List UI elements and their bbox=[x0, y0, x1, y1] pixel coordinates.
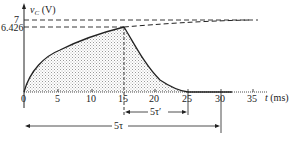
y-axis-unit: (V) bbox=[39, 4, 55, 16]
x-tick-10: 10 bbox=[86, 93, 96, 104]
arrow-left-icon bbox=[125, 110, 130, 114]
arrow-left-icon bbox=[25, 124, 30, 128]
x-tick-0: 0 bbox=[21, 93, 26, 104]
x-tick-35: 35 bbox=[247, 93, 257, 104]
arrow-right-icon bbox=[215, 124, 220, 128]
x-tick-15: 15 bbox=[118, 93, 128, 104]
y-axis-label: vC (V) bbox=[30, 4, 56, 17]
arrow-right-icon bbox=[182, 110, 187, 114]
x-tick-20: 20 bbox=[149, 93, 159, 104]
y-axis-arrow-icon bbox=[22, 3, 26, 9]
tau-prime-label: 5τ′ bbox=[150, 106, 161, 117]
y-tick-6426: 6.426 bbox=[1, 22, 24, 33]
x-tick-5: 5 bbox=[55, 93, 60, 104]
x-tick-25: 25 bbox=[182, 93, 192, 104]
tau-label: 5τ bbox=[114, 120, 123, 131]
x-tick-30: 30 bbox=[215, 93, 225, 104]
capacitor-voltage-chart: vC (V) 7 6.426 0 5 10 15 20 25 30 35 t (… bbox=[0, 0, 298, 143]
x-axis-label: t (ms) bbox=[265, 92, 289, 104]
charging-continuation-curve bbox=[124, 20, 250, 27]
x-axis-unit: (ms) bbox=[268, 92, 289, 104]
